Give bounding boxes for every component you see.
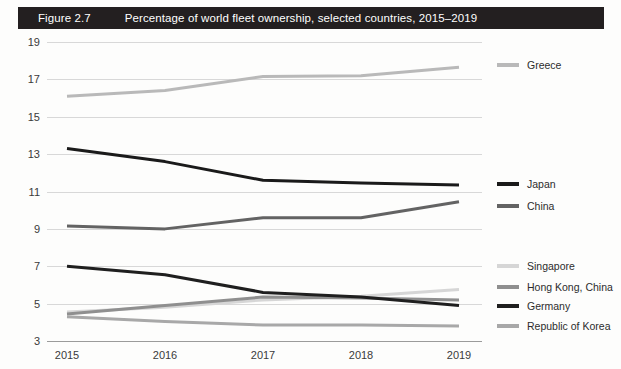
legend-swatch-icon	[497, 182, 519, 186]
gridline	[47, 117, 482, 118]
legend-label: Greece	[527, 59, 561, 71]
series-line-germany	[67, 266, 459, 305]
legend-swatch-icon	[497, 204, 519, 208]
y-axis-tick-label: 11	[0, 186, 40, 198]
y-axis-tick-label: 7	[0, 260, 40, 272]
y-axis-tick-label: 5	[0, 298, 40, 310]
legend-label: Japan	[527, 178, 556, 190]
legend-item-republic-of-korea[interactable]: Republic of Korea	[497, 320, 610, 332]
legend-item-hong-kong-china[interactable]: Hong Kong, China	[497, 281, 613, 293]
gridline	[47, 192, 482, 193]
series-line-singapore	[67, 290, 459, 312]
legend-swatch-icon	[497, 264, 519, 268]
legend-item-greece[interactable]: Greece	[497, 59, 561, 71]
series-line-china	[67, 202, 459, 229]
legend-label: China	[527, 200, 554, 212]
y-axis-tick-label: 17	[0, 73, 40, 85]
y-axis-tick-label: 9	[0, 223, 40, 235]
series-line-greece	[67, 67, 459, 96]
x-axis-tick-label: 2016	[153, 349, 177, 361]
legend-swatch-icon	[497, 63, 519, 67]
legend-item-singapore[interactable]: Singapore	[497, 260, 575, 272]
legend-swatch-icon	[497, 285, 519, 289]
legend-item-germany[interactable]: Germany	[497, 300, 570, 312]
y-axis-tick-label: 3	[0, 335, 40, 347]
x-axis-line	[47, 341, 482, 342]
gridline	[47, 42, 482, 43]
figure-container: Figure 2.7 Percentage of world fleet own…	[0, 0, 621, 369]
legend-swatch-icon	[497, 304, 519, 308]
x-axis-tick-label: 2019	[447, 349, 471, 361]
x-axis-tick-label: 2015	[55, 349, 79, 361]
legend-label: Singapore	[527, 260, 575, 272]
legend-swatch-icon	[497, 324, 519, 328]
legend-item-japan[interactable]: Japan	[497, 178, 556, 190]
gridline	[47, 304, 482, 305]
y-axis-tick-label: 19	[0, 36, 40, 48]
x-axis-tick-label: 2018	[349, 349, 373, 361]
x-axis-tick-label: 2017	[251, 349, 275, 361]
y-axis-tick-label: 15	[0, 111, 40, 123]
legend-label: Germany	[527, 300, 570, 312]
gridline	[47, 229, 482, 230]
gridline	[47, 266, 482, 267]
legend-label: Republic of Korea	[527, 320, 610, 332]
gridline	[47, 154, 482, 155]
y-axis-tick-label: 13	[0, 148, 40, 160]
legend-label: Hong Kong, China	[527, 281, 613, 293]
gridline	[47, 79, 482, 80]
series-line-republic-of-korea	[67, 317, 459, 326]
series-line-hong-kong-china	[67, 297, 459, 314]
legend-item-china[interactable]: China	[497, 200, 554, 212]
